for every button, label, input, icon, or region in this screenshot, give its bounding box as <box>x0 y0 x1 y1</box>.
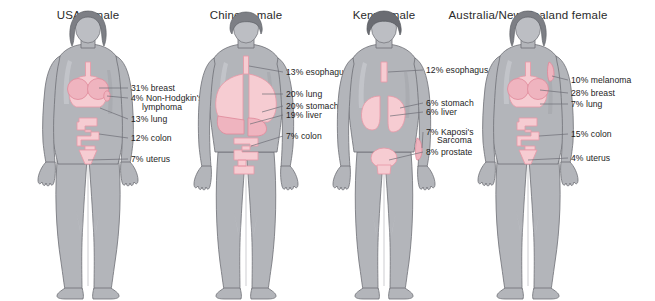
callout-chinese-male-lung: 20% lung <box>286 89 322 99</box>
callout-anz-female-breast: 28% breast <box>571 88 616 98</box>
cancer-incidence-infographic: USA female <box>0 0 655 301</box>
callout-usa-female-uterus: 7% uterus <box>131 154 170 164</box>
callout-kenya-male-esophagus: 12% esophagus <box>426 65 488 75</box>
callout-chinese-male-esophagus: 13% esophagus <box>286 67 348 77</box>
callout-anz-female-uterus: 4% uterus <box>571 153 610 163</box>
callout-anz-female-colon: 15% colon <box>571 129 612 139</box>
infographic-canvas: USA female <box>0 0 655 301</box>
callout-kenya-male-kaposis-sarcoma-line2: Sarcoma <box>437 135 472 145</box>
callout-usa-female-breast: 31% breast <box>131 83 176 93</box>
callout-anz-female-lung: 7% lung <box>571 99 603 109</box>
callout-kenya-male-prostate: 8% prostate <box>426 147 473 157</box>
callout-chinese-male-liver: 19% liver <box>286 110 322 120</box>
callout-chinese-male-colon: 7% colon <box>286 131 322 141</box>
callout-usa-female-colon: 12% colon <box>131 133 172 143</box>
callout-anz-female-melanoma: 10% melanoma <box>571 75 631 85</box>
callout-usa-female-non-hodgkins-lymphoma-line2: lymphoma <box>142 102 182 112</box>
callout-kenya-male-liver: 6% liver <box>426 107 457 117</box>
callout-usa-female-lung: 13% lung <box>131 114 167 124</box>
